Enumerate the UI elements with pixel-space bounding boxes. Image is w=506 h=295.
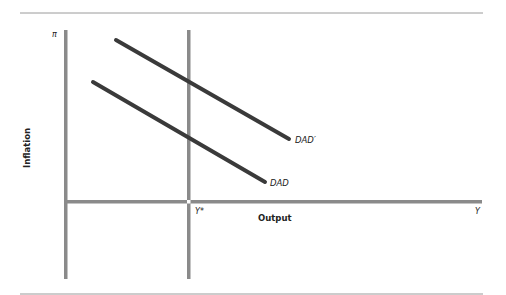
x-axis-title: Output	[258, 213, 292, 223]
ystar-line	[187, 30, 191, 279]
y-axis	[64, 30, 68, 279]
ystar-label: Y*	[195, 207, 204, 216]
y-axis-symbol: π	[52, 30, 57, 39]
dad-prime-curve	[116, 40, 289, 139]
y-axis-title: Inflation	[22, 128, 32, 168]
chart-canvas: π Inflation Output Y Y* DAD DAD′	[0, 0, 506, 295]
dad-curve	[93, 82, 265, 182]
ystar-intersection-gap	[187, 200, 191, 204]
dad-prime-label: DAD′	[295, 135, 316, 145]
dad-label: DAD	[270, 178, 289, 188]
x-axis-symbol: Y	[475, 207, 481, 216]
x-axis	[64, 200, 482, 204]
